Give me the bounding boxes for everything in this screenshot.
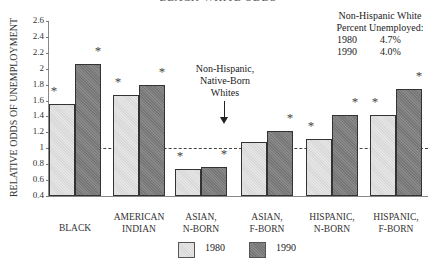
arrow-down-icon bbox=[220, 117, 228, 124]
legend-label-1980: 1980 bbox=[205, 242, 225, 253]
x-category-label-line: ASIAN, bbox=[232, 211, 302, 223]
x-category-label: HISPANIC,N-BORN bbox=[297, 211, 367, 235]
bar-1980 bbox=[175, 169, 201, 196]
y-tick-label: 1.4 bbox=[14, 110, 44, 120]
x-category-label-line: HISPANIC, bbox=[361, 211, 431, 223]
box-year: 1990 bbox=[337, 46, 380, 58]
y-tick-label: 2.2 bbox=[14, 47, 44, 57]
bar-1990 bbox=[332, 115, 358, 196]
y-tick-label: 1.6 bbox=[14, 95, 44, 105]
chart-title: BLACK-WHITE ODDS bbox=[0, 0, 436, 3]
y-tick-label: 1.2 bbox=[14, 126, 44, 136]
box-row: 19804.7% bbox=[330, 34, 436, 46]
y-tick-label: 2.6 bbox=[14, 15, 44, 25]
y-tick-mark bbox=[46, 101, 49, 102]
x-category-label-line: ASIAN, bbox=[166, 211, 236, 223]
x-category-label-line: F-BORN bbox=[361, 223, 431, 235]
bar-1990 bbox=[75, 64, 101, 196]
bar-1980 bbox=[370, 115, 396, 196]
box-heading: Percent Unemployed: bbox=[330, 22, 430, 34]
significance-star: * bbox=[304, 121, 318, 131]
y-tick-mark bbox=[46, 21, 49, 22]
box-percent: 4.0% bbox=[380, 46, 420, 58]
significance-star: * bbox=[91, 46, 105, 56]
x-category-label: ASIAN,F-BORN bbox=[232, 211, 302, 235]
box-row: 19904.0% bbox=[330, 46, 436, 58]
y-tick-label: 2.4 bbox=[14, 31, 44, 41]
significance-star: * bbox=[155, 67, 169, 77]
bar-1990 bbox=[201, 167, 227, 196]
x-category-label: AMERICANINDIAN bbox=[104, 211, 174, 235]
white-unemployment-box: Non-Hispanic WhitePercent Unemployed:198… bbox=[330, 10, 436, 58]
reference-annotation: Non-Hispanic,Native-BornWhites bbox=[180, 63, 270, 99]
y-tick-mark bbox=[46, 196, 49, 197]
significance-star: * bbox=[412, 71, 426, 81]
legend-swatch-1980 bbox=[178, 242, 195, 258]
significance-star: * bbox=[283, 113, 297, 123]
significance-star: * bbox=[47, 86, 61, 96]
annotation-line: Native-Born bbox=[180, 75, 270, 87]
y-tick-mark bbox=[46, 53, 49, 54]
x-category-label-line: AMERICAN bbox=[104, 211, 174, 223]
bar-1980 bbox=[241, 142, 267, 196]
x-category-label: HISPANIC,F-BORN bbox=[361, 211, 431, 235]
bar-1980 bbox=[49, 104, 75, 196]
annotation-line: Non-Hispanic, bbox=[180, 63, 270, 75]
significance-star: * bbox=[111, 77, 125, 87]
box-year: 1980 bbox=[337, 34, 380, 46]
bar-1980 bbox=[113, 95, 139, 196]
y-tick-label: 0.4 bbox=[14, 190, 44, 200]
x-category-label: ASIAN,N-BORN bbox=[166, 211, 236, 235]
x-category-label-line: INDIAN bbox=[104, 223, 174, 235]
y-tick-label: 0.6 bbox=[14, 174, 44, 184]
x-axis-line bbox=[48, 196, 428, 197]
x-category-label-line: N-BORN bbox=[297, 223, 367, 235]
y-tick-label: 1.8 bbox=[14, 79, 44, 89]
legend-label-1990: 1990 bbox=[276, 242, 296, 253]
bar-1990 bbox=[267, 131, 293, 196]
significance-star: * bbox=[173, 151, 187, 161]
bar-1990 bbox=[396, 89, 422, 196]
bar-1980 bbox=[306, 139, 332, 196]
y-tick-label: 1 bbox=[14, 142, 44, 152]
x-category-label-line: BLACK bbox=[40, 222, 110, 234]
x-category-label-line: N-BORN bbox=[166, 223, 236, 235]
x-category-label: BLACK bbox=[40, 222, 110, 234]
y-tick-label: 0.8 bbox=[14, 158, 44, 168]
x-category-label-line: F-BORN bbox=[232, 223, 302, 235]
y-tick-label: 2 bbox=[14, 63, 44, 73]
box-percent: 4.7% bbox=[380, 34, 420, 46]
significance-star: * bbox=[368, 97, 382, 107]
y-tick-mark bbox=[46, 69, 49, 70]
legend-swatch-1990 bbox=[249, 242, 266, 258]
y-tick-mark bbox=[46, 37, 49, 38]
significance-star: * bbox=[217, 149, 231, 159]
annotation-line: Whites bbox=[180, 87, 270, 99]
significance-star: * bbox=[348, 97, 362, 107]
box-heading: Non-Hispanic White bbox=[330, 10, 430, 22]
bar-1990 bbox=[139, 85, 165, 196]
x-category-label-line: HISPANIC, bbox=[297, 211, 367, 223]
